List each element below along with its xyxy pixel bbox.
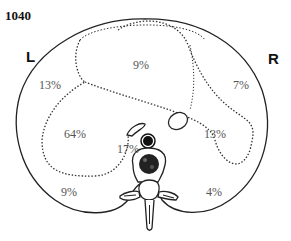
region-label-left-upper: 13% bbox=[39, 78, 61, 93]
region-label-right-middle: 13% bbox=[204, 127, 226, 142]
abdomen-cross-section-diagram bbox=[0, 0, 291, 241]
region-label-top-center: 9% bbox=[133, 58, 149, 73]
region-label-left-middle: 64% bbox=[64, 127, 86, 142]
region-label-right-lower: 4% bbox=[206, 185, 222, 200]
small-organ bbox=[165, 109, 190, 133]
left-side-label: L bbox=[26, 48, 35, 65]
region-label-right-upper: 7% bbox=[233, 78, 249, 93]
region-label-center-aortic: 17% bbox=[117, 142, 139, 157]
right-side-label: R bbox=[268, 50, 279, 67]
region-label-left-lower: 9% bbox=[61, 185, 77, 200]
